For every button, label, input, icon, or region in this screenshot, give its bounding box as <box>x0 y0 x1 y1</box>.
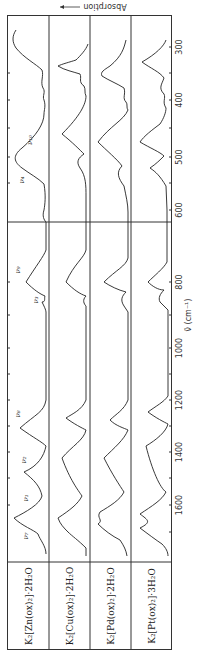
svg-text:1000: 1000 <box>175 338 184 358</box>
svg-text:ν₇: ν₇ <box>22 532 30 539</box>
svg-text:ν₃: ν₃ <box>32 296 40 303</box>
svg-text:600: 600 <box>175 202 184 217</box>
compound-label-cu: K₂[Cu(ox)₂]·2H₂O <box>65 567 75 646</box>
svg-text:ν₁₀: ν₁₀ <box>26 135 34 145</box>
x-axis-label: ν̃ (cm⁻¹) <box>184 299 193 332</box>
svg-text:1400: 1400 <box>175 442 184 462</box>
spectrum-pt <box>140 40 168 556</box>
spectrum-pd <box>98 40 128 556</box>
svg-text:300: 300 <box>175 39 184 54</box>
spectrum-zn <box>13 30 46 554</box>
svg-text:400: 400 <box>175 92 184 107</box>
band-annotations: ν₁₀ ν₄ ν₉ ν₃ ν₈ ν₂ ν₁ ν₇ <box>14 135 40 540</box>
svg-text:ν₉: ν₉ <box>14 266 22 273</box>
svg-text:800: 800 <box>175 274 184 289</box>
svg-text:500: 500 <box>175 149 184 164</box>
svg-text:ν₂: ν₂ <box>20 456 28 463</box>
svg-text:ν₁: ν₁ <box>22 494 30 501</box>
compound-label-zn: K₂[Zn(ox)₂]·2H₂O <box>24 567 34 645</box>
svg-text:ν₄: ν₄ <box>18 176 26 183</box>
spectrum-cu <box>58 44 88 556</box>
svg-text:Absorption: Absorption <box>83 2 126 11</box>
compound-label-pt: K₂[Pt(ox)₂]·3H₂O <box>147 568 157 644</box>
spectra-figure: 300 400 500 600 800 1000 1200 1400 1600 … <box>0 0 199 662</box>
absorption-indicator: Absorption <box>60 2 127 11</box>
tick-labels: 300 400 500 600 800 1000 1200 1400 1600 <box>175 39 184 515</box>
svg-text:1600: 1600 <box>175 495 184 515</box>
svg-text:ν₈: ν₈ <box>14 410 22 417</box>
svg-text:1200: 1200 <box>175 390 184 410</box>
compound-label-pd: K₂[Pd(ox)₂]·2H₂O <box>106 567 116 645</box>
